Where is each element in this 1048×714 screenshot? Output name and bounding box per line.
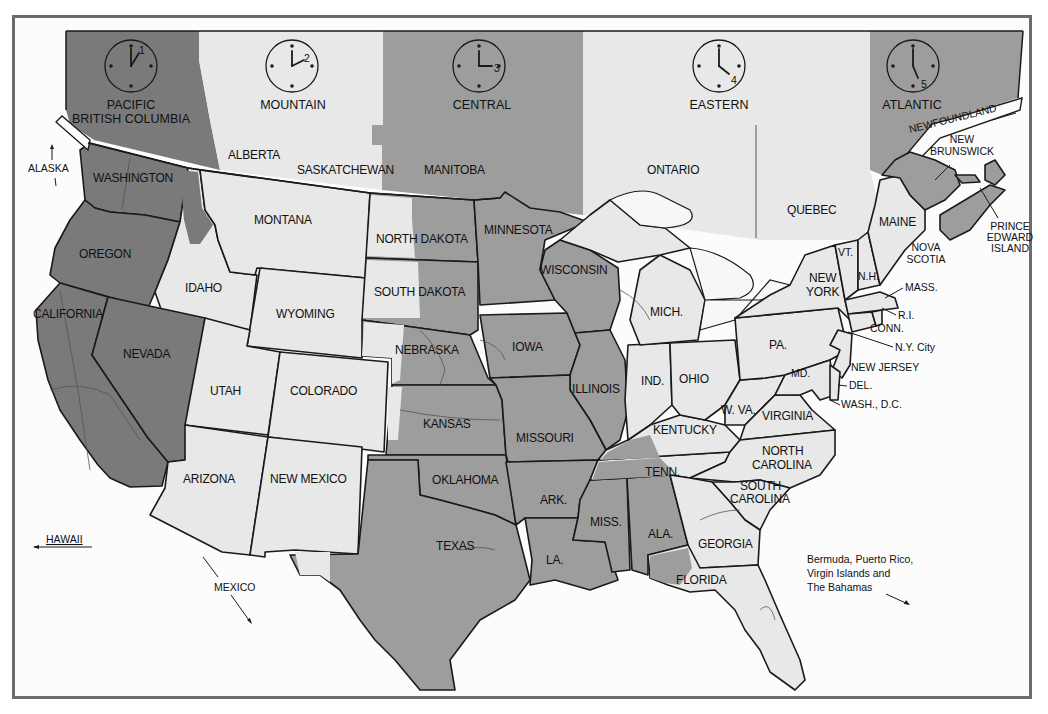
label-washington-dc: WASH., D.C.: [841, 398, 902, 410]
label-mississippi: MISS.: [590, 515, 622, 529]
label-georgia: GEORGIA: [698, 537, 753, 551]
label-north-carolina-2: CAROLINA: [752, 458, 812, 472]
label-maryland: MD.: [791, 367, 810, 379]
zone-label-mountain: MOUNTAIN: [260, 98, 326, 112]
label-montana: MONTANA: [254, 213, 312, 227]
label-ohio: OHIO: [679, 372, 709, 386]
label-manitoba: MANITOBA: [424, 163, 485, 177]
label-south-dakota: SOUTH DAKOTA: [374, 285, 466, 299]
state-colorado: [268, 352, 388, 452]
label-north-carolina-1: NORTH: [762, 444, 803, 458]
label-florida: FLORIDA: [676, 573, 727, 587]
label-south-carolina-1: SOUTH: [740, 479, 781, 493]
time-zone-map: 1 2 3 4 5 PACIFIC BRITISH COLUMBIA MOUNT…: [0, 0, 1048, 714]
label-wyoming: WYOMING: [276, 307, 335, 321]
label-wisconsin: WISCONSIN: [540, 263, 608, 277]
label-michigan: MICH.: [650, 305, 683, 319]
label-caribbean-1: Bermuda, Puerto Rico,: [807, 553, 913, 565]
label-alabama: ALA.: [648, 527, 673, 541]
label-kansas: KANSAS: [423, 417, 471, 431]
label-louisiana: LA.: [546, 553, 563, 567]
clock-hour-label: 4: [731, 74, 737, 86]
state-delaware: [830, 365, 840, 400]
label-nova-scotia-1: NOVA: [912, 241, 941, 253]
label-ontario: ONTARIO: [647, 163, 699, 177]
label-washington: WASHINGTON: [93, 171, 173, 185]
label-caribbean-3: The Bahamas: [807, 581, 872, 593]
label-oregon: OREGON: [79, 247, 131, 261]
label-new-brunswick-1: NEW: [950, 133, 975, 145]
zone-label-central: CENTRAL: [453, 98, 511, 112]
label-new-york-1: NEW: [809, 271, 837, 285]
label-south-carolina-2: CAROLINA: [730, 492, 790, 506]
label-delaware: DEL.: [849, 379, 872, 391]
label-california: CALIFORNIA: [33, 307, 103, 321]
label-connecticut: CONN.: [870, 322, 904, 334]
label-minnesota: MINNESOTA: [484, 223, 553, 237]
cape-breton: [985, 160, 1005, 185]
label-new-hampshire: N.H.: [858, 270, 879, 282]
zone-central-canada: [372, 31, 583, 215]
tx-mountain-part: [295, 552, 330, 582]
label-nova-scotia-2: SCOTIA: [906, 253, 945, 265]
mexico-arrow: [203, 557, 218, 577]
label-caribbean-2: Virgin Islands and: [807, 567, 890, 579]
label-maine: MAINE: [879, 215, 916, 229]
label-new-brunswick-2: BRUNSWICK: [930, 145, 994, 157]
label-mexico: MEXICO: [214, 581, 255, 593]
label-rhode-island: R.I.: [898, 309, 914, 321]
state-michigan-lower: [630, 255, 705, 345]
label-pennsylvania: PA.: [769, 338, 787, 352]
zone-label-eastern: EASTERN: [689, 98, 748, 112]
clock-hour-label: 5: [921, 78, 927, 90]
zone-label-atlantic: ATLANTIC: [882, 98, 942, 112]
label-west-virginia: W. VA.: [721, 403, 756, 417]
label-illinois: ILLINOIS: [572, 382, 620, 396]
label-colorado: COLORADO: [290, 384, 357, 398]
zone-sublabel-british-columbia: BRITISH COLUMBIA: [72, 112, 191, 126]
clock-hour-label: 3: [494, 62, 500, 74]
label-hawaii: HAWAII: [46, 533, 83, 545]
label-indiana: IND.: [641, 374, 664, 388]
label-new-mexico: NEW MEXICO: [270, 472, 347, 486]
label-massachusetts: MASS.: [905, 281, 938, 293]
label-north-dakota: NORTH DAKOTA: [376, 232, 468, 246]
label-nevada: NEVADA: [123, 347, 170, 361]
label-idaho: IDAHO: [185, 281, 222, 295]
zone-label-pacific: PACIFIC: [107, 98, 155, 112]
label-utah: UTAH: [210, 384, 241, 398]
label-arizona: ARIZONA: [183, 472, 235, 486]
label-new-york-2: YORK: [806, 285, 839, 299]
label-missouri: MISSOURI: [516, 431, 574, 445]
label-new-jersey: NEW JERSEY: [851, 361, 919, 373]
label-tennessee: TENN.: [645, 465, 680, 479]
label-alaska: ALASKA: [28, 162, 69, 174]
label-ny-city: N.Y. City: [895, 341, 936, 353]
label-quebec: QUEBEC: [787, 203, 837, 217]
clock-hour-label: 1: [139, 44, 145, 56]
label-arkansas: ARK.: [540, 493, 567, 507]
label-texas: TEXAS: [436, 539, 475, 553]
label-pei-3: ISLAND: [991, 242, 1029, 254]
label-vermont: VT.: [838, 246, 853, 258]
caribbean-arrow: [886, 594, 908, 604]
label-saskatchewan: SASKATCHEWAN: [297, 163, 394, 177]
nd-mountain-part: [367, 195, 415, 258]
clock-hour-label: 2: [304, 52, 310, 64]
label-kentucky: KENTUCKY: [653, 423, 717, 437]
label-alberta: ALBERTA: [228, 148, 280, 162]
label-iowa: IOWA: [512, 340, 543, 354]
label-nebraska: NEBRASKA: [395, 343, 459, 357]
label-virginia: VIRGINIA: [762, 409, 813, 423]
state-new-mexico: [250, 437, 362, 557]
label-oklahoma: OKLAHOMA: [432, 473, 499, 487]
